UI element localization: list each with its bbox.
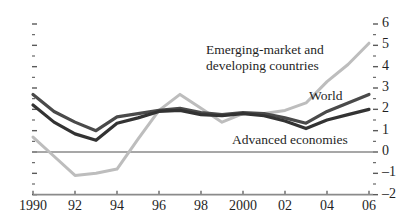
x-tick-label: 04 <box>320 198 334 214</box>
right-axis-ticks <box>373 24 378 195</box>
world-label-text: World <box>309 88 342 104</box>
y-tick-label: 1 <box>382 122 389 138</box>
y-tick-label: 6 <box>382 15 389 31</box>
emerging-label-line1: Emerging-market and <box>206 42 324 58</box>
y-tick-label: 2 <box>382 100 389 116</box>
advanced-label-text: Advanced economies <box>232 132 348 148</box>
x-tick-label: 96 <box>152 198 166 214</box>
chart-container: Emerging-market and developing countries… <box>0 0 404 222</box>
y-tick-label: 3 <box>382 79 389 95</box>
x-tick-label: 94 <box>110 198 124 214</box>
line-chart-plot <box>0 0 404 222</box>
series-annotation-advanced: Advanced economies <box>232 132 348 148</box>
x-tick-label: 92 <box>68 198 82 214</box>
x-tick-label: 02 <box>278 198 292 214</box>
y-tick-label: 0 <box>382 143 389 159</box>
y-tick-label: 5 <box>382 36 389 52</box>
y-tick-label: –1 <box>382 164 396 180</box>
emerging-label-line2: developing countries <box>206 58 324 74</box>
y-tick-label: 4 <box>382 58 389 74</box>
x-tick-label: 98 <box>194 198 208 214</box>
x-tick-label: 06 <box>362 198 376 214</box>
series-annotation-emerging: Emerging-market and developing countries <box>206 42 324 74</box>
x-tick-label: 2000 <box>229 198 257 214</box>
series-annotation-world: World <box>309 88 342 104</box>
x-tick-label: 1990 <box>19 198 47 214</box>
y-tick-label: –2 <box>382 186 396 202</box>
